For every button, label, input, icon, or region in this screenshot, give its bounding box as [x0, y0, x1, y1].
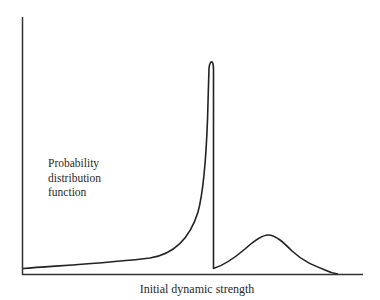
chart-canvas	[0, 0, 380, 300]
y-axis-label-line-3: function	[48, 185, 101, 200]
y-axis-label-line-2: distribution	[48, 171, 101, 186]
y-axis-label-line-1: Probability	[48, 156, 101, 171]
y-axis-label: Probability distribution function	[48, 156, 101, 200]
x-axis-label: Initial dynamic strength	[0, 282, 380, 297]
